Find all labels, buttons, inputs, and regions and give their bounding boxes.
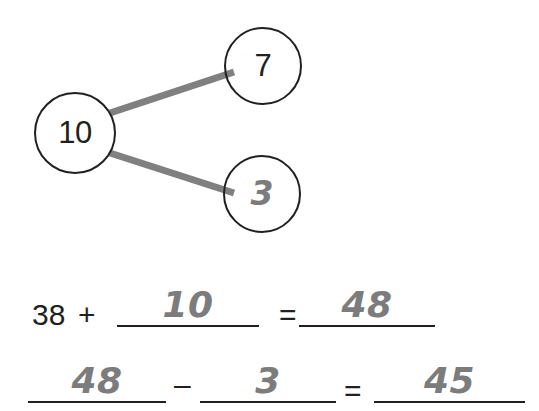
equation-row-addition: 38 + 10 = 48	[0, 264, 539, 340]
addition-equals-operator: =	[279, 300, 297, 330]
addition-blank-sum-value: 48	[299, 287, 435, 323]
bond-node-whole-label: 10	[58, 117, 91, 150]
subtraction-blank-subtrahend-value: 3	[200, 363, 336, 399]
addition-plus-operator: +	[78, 300, 96, 330]
bond-node-part-bottom-label: 3	[251, 177, 274, 212]
answer-rule	[200, 401, 336, 404]
bond-node-part-top: 7	[224, 27, 302, 105]
equations-area: 38 + 10 = 48 48 – 3 =	[0, 250, 539, 411]
answer-rule	[299, 325, 435, 328]
subtraction-blank-difference[interactable]: 45	[374, 351, 525, 403]
subtraction-minus-operator: –	[174, 370, 191, 400]
bond-node-whole: 10	[34, 92, 116, 174]
subtraction-blank-subtrahend[interactable]: 3	[200, 351, 336, 403]
subtraction-equals-operator: =	[344, 376, 362, 406]
answer-rule	[28, 401, 166, 404]
subtraction-blank-difference-value: 45	[374, 363, 525, 399]
connector-line-whole-to-bottom	[110, 153, 234, 193]
addition-blank-addend[interactable]: 10	[117, 275, 259, 327]
answer-rule	[117, 325, 259, 328]
answer-rule	[374, 401, 525, 404]
subtraction-blank-minuend[interactable]: 48	[28, 351, 166, 403]
addition-blank-sum[interactable]: 48	[299, 275, 435, 327]
addition-first-addend: 38	[32, 300, 65, 330]
addition-blank-addend-value: 10	[117, 287, 259, 323]
worksheet-page: 10 7 3 38 + 10 = 48 4	[0, 0, 539, 411]
connector-line-whole-to-top	[110, 72, 234, 113]
equation-row-subtraction: 48 – 3 = 45	[0, 340, 539, 411]
bond-node-part-top-label: 7	[254, 50, 271, 83]
subtraction-blank-minuend-value: 48	[28, 363, 166, 399]
number-bond-diagram: 10 7 3	[0, 0, 539, 250]
bond-node-part-bottom[interactable]: 3	[223, 155, 301, 233]
